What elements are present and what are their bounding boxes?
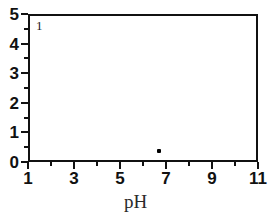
x-tick-major [257, 162, 259, 169]
x-ticklabel: 7 [161, 170, 170, 187]
x-tick-major [211, 162, 213, 169]
chart-figure: 1 1357911 012345 pH [0, 0, 271, 216]
x-tick-minor [96, 162, 98, 166]
y-tick-major [21, 131, 28, 133]
x-ticklabel: 1 [23, 170, 32, 187]
data-point [157, 149, 161, 153]
x-axis-label: pH [0, 192, 271, 211]
x-ticklabel: 9 [207, 170, 216, 187]
x-ticklabel: 11 [249, 170, 267, 187]
y-tick-minor [24, 28, 28, 30]
y-tick-major [21, 161, 28, 163]
y-tick-minor [24, 87, 28, 89]
y-ticklabel: 1 [0, 124, 19, 141]
y-ticklabel: 0 [0, 154, 19, 171]
x-ticklabel: 5 [115, 170, 124, 187]
x-tick-major [165, 162, 167, 169]
y-tick-major [21, 72, 28, 74]
x-tick-minor [234, 162, 236, 166]
y-tick-major [21, 102, 28, 104]
x-tick-major [119, 162, 121, 169]
x-tick-major [73, 162, 75, 169]
y-ticklabel: 3 [0, 65, 19, 82]
y-tick-minor [24, 57, 28, 59]
x-tick-minor [142, 162, 144, 166]
y-tick-minor [24, 117, 28, 119]
x-ticklabel: 3 [69, 170, 78, 187]
y-ticklabel: 5 [0, 6, 19, 23]
y-tick-major [21, 13, 28, 15]
y-tick-major [21, 43, 28, 45]
x-tick-major [27, 162, 29, 169]
x-tick-minor [50, 162, 52, 166]
x-tick-minor [188, 162, 190, 166]
y-tick-minor [24, 146, 28, 148]
plot-area [28, 14, 258, 162]
y-ticklabel: 4 [0, 35, 19, 52]
y-ticklabel: 2 [0, 94, 19, 111]
